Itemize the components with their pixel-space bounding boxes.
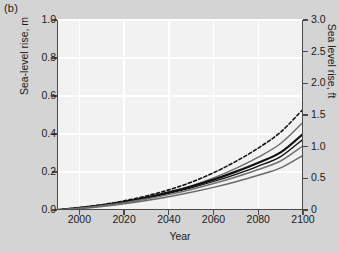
x-tick-label: 2100 [291,213,314,225]
figure-panel-b: (b) 0.00.20.40.60.81.000.51.01.52.02.53.… [0,0,339,253]
x-tick-label: 2040 [157,213,180,225]
y-tick-label-left: 0.0 [41,203,56,215]
tick-right [303,209,308,210]
y-tick-label-right: 1.0 [311,140,326,152]
x-tick-label: 2000 [68,213,91,225]
y-tick-label-left: 0.4 [41,127,56,139]
y-tick-label-right: 1.5 [311,108,326,120]
y-tick-label-right: 0.5 [311,171,326,183]
y-tick-label-right: 2.0 [311,76,326,88]
y-tick-label-left: 1.0 [41,13,56,25]
y-tick-label-left: 0.2 [41,165,56,177]
y-axis-title-right: Sea level rise, ft [326,0,338,131]
tick-right [303,83,308,84]
y-tick-label-left: 0.8 [41,51,56,63]
y-tick-label-left: 0.6 [41,89,56,101]
tick-right [303,19,308,20]
series-line-scenario-black-thin [57,139,303,210]
y-tick-label-right: 3.0 [311,13,326,25]
x-tick-label: 2060 [202,213,225,225]
tick-right [303,114,308,115]
y-axis-title-left: Sea-level rise, m [18,0,30,126]
series-line-scenario-gray-mid [57,146,303,210]
tick-right [303,146,308,147]
series-line-scenario-black-thick [57,134,303,210]
x-axis-title: Year [57,230,303,242]
tick-right [303,178,308,179]
tick-right [303,51,308,52]
y-tick-label-right: 2.5 [311,45,326,57]
x-tick-label: 2020 [112,213,135,225]
x-tick-label: 2080 [247,213,270,225]
